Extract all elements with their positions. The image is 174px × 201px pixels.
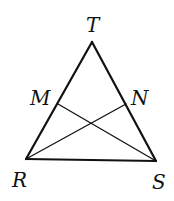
label-n: N [130, 86, 150, 110]
label-s: S [152, 170, 166, 194]
side-rs [26, 159, 156, 161]
label-r: R [11, 168, 27, 192]
triangle-diagram: T M N R S [0, 0, 174, 201]
label-t: T [86, 13, 101, 37]
label-m: M [29, 86, 51, 110]
